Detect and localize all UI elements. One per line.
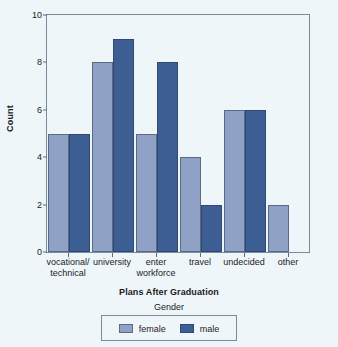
legend-swatch-female [119,324,133,333]
legend-entry-female[interactable]: female [119,324,166,334]
legend-box: femalemale [101,315,238,341]
bar-group [179,15,223,252]
bar-female [48,134,69,253]
x-tick-label: other [278,257,299,268]
bar-female [180,157,201,252]
y-tick-label: 10 [32,10,42,20]
x-tick-label: university [93,257,131,268]
bar-group [47,15,91,252]
y-tick-label: 4 [37,152,42,162]
y-tick-label: 8 [37,57,42,67]
y-axis-title: Count [5,105,21,132]
bar-group [135,15,179,252]
bar-group [91,15,135,252]
x-axis-title: Plans After Graduation [0,287,338,297]
plot-inner: 0246810 [47,15,309,252]
bar-female [136,134,157,253]
y-tick-label: 2 [37,200,42,210]
legend-label: female [139,324,166,334]
x-tick-label: vocational/ technical [46,257,89,279]
x-tick-label: undecided [223,257,265,268]
bar-male [69,134,90,253]
bar-male [201,205,222,252]
bar-male [245,110,266,252]
bar-group [267,15,311,252]
bar-female [268,205,289,252]
y-tick-label: 6 [37,105,42,115]
x-tick-label: enter workforce [136,257,175,279]
x-tick-label: travel [189,257,211,268]
legend-swatch-male [180,324,194,333]
legend-entry-male[interactable]: male [180,324,220,334]
plot-area: 0246810 [46,14,310,253]
bar-group [223,15,267,252]
bar-male [157,62,178,252]
legend-title: Gender [0,302,338,312]
y-tick-label: 0 [37,247,42,257]
legend: Gender femalemale [0,302,338,341]
bar-chart-figure: Count 0246810 Plans After Graduation Gen… [0,0,338,347]
bar-male [113,39,134,252]
legend-label: male [200,324,220,334]
bar-female [224,110,245,252]
bar-female [92,62,113,252]
